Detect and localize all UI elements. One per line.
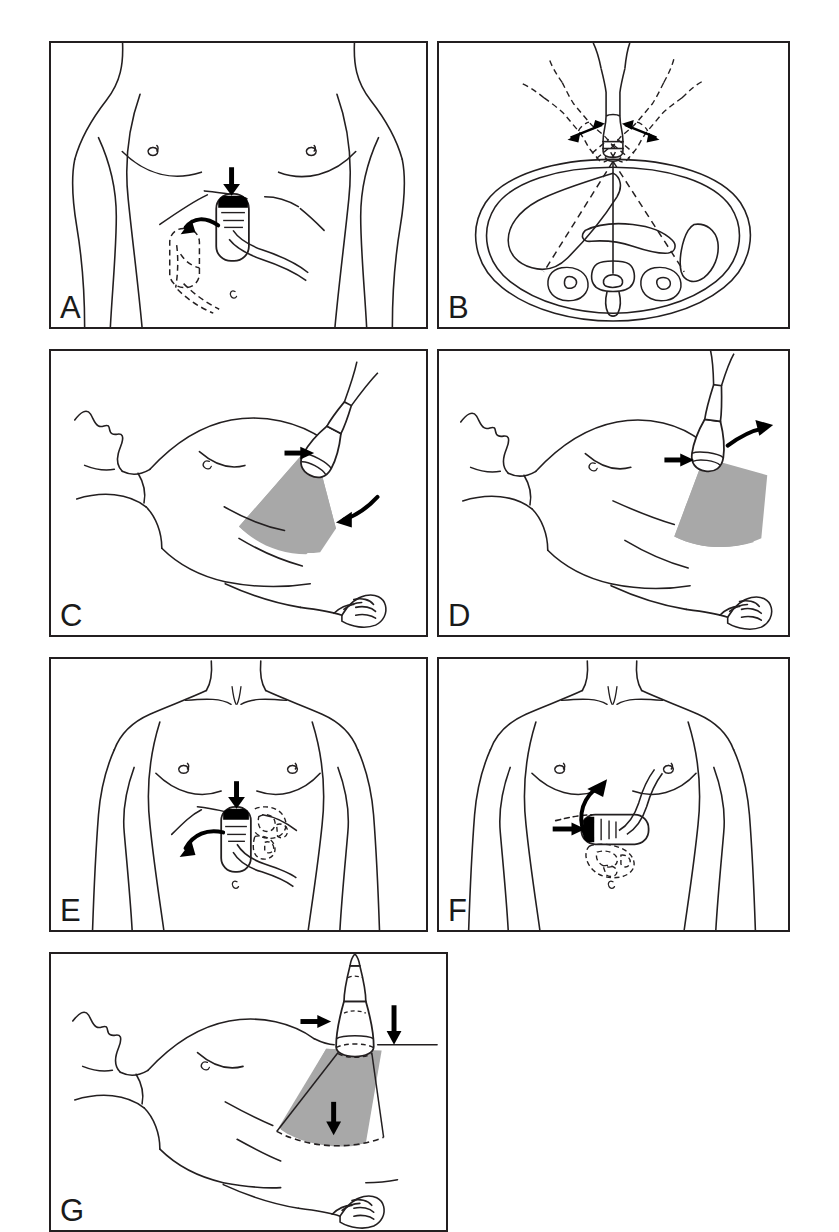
arrow-curved-d bbox=[728, 420, 773, 446]
panel-d-illustration bbox=[439, 351, 788, 635]
arrow-down-compression-g bbox=[387, 1005, 402, 1044]
panel-g-illustration bbox=[51, 954, 446, 1230]
panel-f: F bbox=[437, 657, 790, 932]
liver-outline bbox=[508, 173, 620, 269]
beam-axis-right bbox=[613, 161, 684, 271]
dashed-target-outline-a bbox=[170, 228, 219, 313]
arrow-curved-c bbox=[336, 497, 378, 528]
panel-label-a: A bbox=[60, 291, 81, 325]
panel-f-illustration bbox=[439, 659, 788, 930]
panel-label-f: F bbox=[448, 894, 467, 928]
panel-a-illustration bbox=[51, 43, 426, 327]
transducer-a bbox=[216, 194, 308, 281]
pancreas-outline bbox=[582, 224, 675, 253]
right-kidney-outline bbox=[548, 267, 588, 300]
panel-label-e: E bbox=[60, 894, 81, 928]
arrow-right-g bbox=[300, 1015, 331, 1028]
panel-g: G bbox=[49, 952, 448, 1232]
arrow-curved-a bbox=[181, 219, 219, 234]
transducer-f bbox=[581, 769, 662, 844]
panel-c: C bbox=[49, 349, 428, 637]
panel-label-c: C bbox=[60, 599, 82, 633]
panel-label-d: D bbox=[448, 599, 470, 633]
arrow-down-a bbox=[223, 167, 240, 196]
panel-label-g: G bbox=[60, 1194, 84, 1228]
panel-c-illustration bbox=[51, 351, 426, 635]
left-kidney-outline bbox=[641, 267, 681, 300]
figure-root: A bbox=[0, 0, 839, 1232]
panel-e-illustration bbox=[51, 659, 426, 930]
arrow-curved-e bbox=[180, 831, 224, 857]
spleen-outline bbox=[680, 224, 718, 281]
transducer-d bbox=[690, 351, 738, 473]
panel-a: A bbox=[49, 41, 428, 329]
panel-b-illustration bbox=[439, 43, 788, 327]
panel-label-b: B bbox=[448, 291, 469, 325]
dashed-bowel-gas-e bbox=[253, 807, 287, 859]
panel-e: E bbox=[49, 657, 428, 932]
panel-b: B bbox=[437, 41, 790, 329]
dashed-bowel-gas-f bbox=[586, 844, 634, 878]
arrow-right-d bbox=[664, 454, 694, 467]
transducer-c bbox=[296, 360, 382, 483]
transducer-g bbox=[336, 954, 374, 1057]
panel-d: D bbox=[437, 349, 790, 637]
arrow-down-e bbox=[228, 781, 245, 809]
